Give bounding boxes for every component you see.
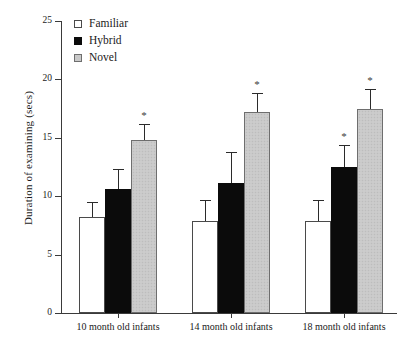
bar-novel: [131, 140, 157, 313]
y-axis-tick-label: 0: [47, 308, 52, 318]
open-square-icon: [74, 20, 82, 28]
error-bar: [370, 89, 371, 109]
bar-novel: [244, 112, 270, 313]
y-axis-tick: [55, 313, 61, 314]
error-bar: [344, 145, 345, 167]
y-axis-tick-label: 10: [43, 191, 53, 201]
error-bar: [92, 202, 93, 217]
legend-item-novel: Novel: [74, 49, 128, 66]
error-bar: [257, 93, 258, 112]
bar-familiar: [305, 221, 331, 313]
significance-marker: *: [141, 110, 147, 121]
error-bar-cap: [113, 169, 124, 170]
x-axis-category-label: 10 month old infants: [76, 321, 159, 332]
gray-square-icon: [74, 54, 82, 62]
significance-marker: *: [367, 75, 373, 86]
y-axis-line: [61, 21, 62, 313]
bar-chart-figure: Duration of examining (secs) 0510152025 …: [0, 0, 409, 345]
y-axis-tick: [55, 21, 61, 22]
y-axis-tick: [55, 196, 61, 197]
y-axis-tick: [55, 79, 61, 80]
x-axis-tick: [118, 313, 119, 318]
bar-familiar: [192, 221, 218, 313]
y-axis-tick: [55, 255, 61, 256]
error-bar: [144, 124, 145, 140]
x-axis-tick: [344, 313, 345, 318]
significance-marker: *: [341, 131, 347, 142]
error-bar: [231, 152, 232, 184]
bar-hybrid: [218, 183, 244, 313]
legend-label: Novel: [89, 52, 117, 64]
error-bar-cap: [365, 89, 376, 90]
error-bar-cap: [339, 145, 350, 146]
legend-label: Hybrid: [89, 35, 122, 47]
filled-square-icon: [74, 37, 82, 45]
y-axis-tick-labels: 0510152025: [0, 0, 52, 292]
bar-hybrid: [105, 189, 131, 313]
bar-group: *: [192, 21, 270, 313]
bar-hybrid: [331, 167, 357, 313]
error-bar-cap: [226, 152, 237, 153]
error-bar-cap: [252, 93, 263, 94]
y-axis-tick-label: 20: [43, 75, 53, 85]
error-bar-cap: [200, 200, 211, 201]
error-bar: [318, 200, 319, 221]
y-axis-tick-label: 25: [43, 16, 53, 26]
error-bar-cap: [87, 202, 98, 203]
error-bar-cap: [313, 200, 324, 201]
y-axis-tick-label: 15: [43, 133, 53, 143]
error-bar: [118, 169, 119, 189]
significance-marker: *: [254, 79, 260, 90]
legend-item-familiar: Familiar: [74, 15, 128, 32]
error-bar: [205, 200, 206, 221]
legend-item-hybrid: Hybrid: [74, 32, 128, 49]
bar-familiar: [79, 217, 105, 313]
y-axis-tick-label: 5: [47, 250, 52, 260]
error-bar-cap: [139, 124, 150, 125]
x-axis-tick: [231, 313, 232, 318]
bar-novel: [357, 109, 383, 313]
bar-group: **: [305, 21, 383, 313]
legend: Familiar Hybrid Novel: [74, 15, 128, 66]
x-axis-category-label: 18 month old infants: [302, 321, 385, 332]
x-axis-category-label: 14 month old infants: [189, 321, 272, 332]
y-axis-tick: [55, 138, 61, 139]
legend-label: Familiar: [89, 18, 128, 30]
x-axis-line: [61, 313, 397, 314]
